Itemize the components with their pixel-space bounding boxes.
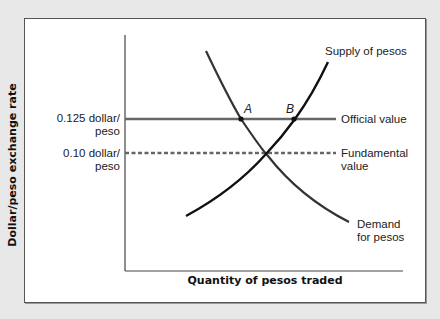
supply-curve — [186, 62, 328, 216]
y-tick-official-line2: peso — [40, 125, 120, 138]
y-tick-fundamental-line2: peso — [40, 160, 120, 173]
demand-curve — [206, 51, 349, 222]
y-tick-official: 0.125 dollar/ peso — [40, 112, 120, 138]
y-tick-official-line1: 0.125 dollar/ — [40, 112, 120, 125]
fundamental-label-line2: value — [341, 160, 408, 173]
demand-label-line2: for pesos — [357, 231, 404, 244]
point-b-label: B — [286, 102, 294, 116]
official-value-label: Official value — [341, 113, 407, 126]
point-b-marker — [291, 116, 296, 121]
supply-label: Supply of pesos — [325, 45, 407, 58]
y-tick-fundamental: 0.10 dollar/ peso — [40, 147, 120, 173]
demand-label: Demand for pesos — [357, 218, 404, 244]
y-axis-title: Dollar/peso exchange rate — [6, 45, 19, 285]
x-axis-title: Quantity of pesos traded — [125, 274, 405, 287]
demand-label-line1: Demand — [357, 218, 404, 231]
fundamental-label-line1: Fundamental — [341, 147, 408, 160]
point-a-label: A — [244, 102, 252, 116]
point-a-marker — [238, 116, 243, 121]
y-tick-fundamental-line1: 0.10 dollar/ — [40, 147, 120, 160]
fundamental-value-label: Fundamental value — [341, 147, 408, 173]
